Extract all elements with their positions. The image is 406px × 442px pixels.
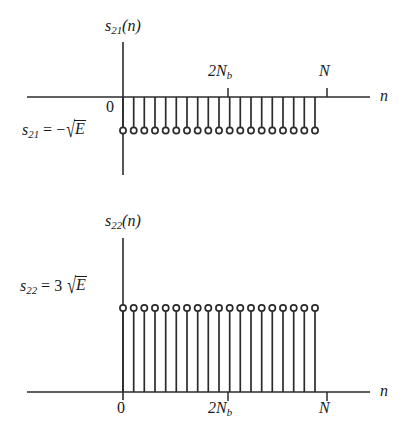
s22-y-axis-label: s22(n) xyxy=(105,213,141,231)
s21-x-axis-label: n xyxy=(380,88,388,104)
s21-xtick-label-2nb: 2Nb xyxy=(208,63,232,81)
s21-markers xyxy=(120,127,318,133)
s22-amplitude-label: s22 = 3 √E xyxy=(20,277,87,296)
s22-xtick-label-0: 0 xyxy=(117,400,125,416)
s21-y-axis-label: s21(n) xyxy=(105,18,141,36)
s22-stems xyxy=(123,311,315,392)
s21-stems xyxy=(123,97,315,128)
s21-xtick-label-0: 0 xyxy=(106,99,114,115)
signal-waveform-figure: s21(n) n 0 2Nb N s21 = −√E s22(n) n 0 2N… xyxy=(0,0,406,442)
s21-xtick-label-n: N xyxy=(319,63,330,79)
figure-canvas xyxy=(0,0,406,442)
s22-xtick-label-n: N xyxy=(319,400,330,416)
s21-amplitude-label: s21 = −√E xyxy=(22,121,86,140)
plot-s22 xyxy=(27,238,370,401)
s22-x-axis-label: n xyxy=(380,383,388,399)
s22-markers xyxy=(120,305,318,311)
s22-xtick-label-2nb: 2Nb xyxy=(208,400,232,418)
